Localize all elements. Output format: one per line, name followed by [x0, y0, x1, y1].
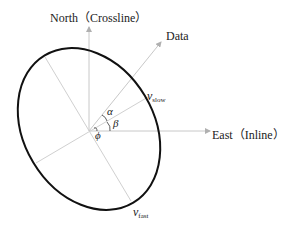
beta-label: β: [113, 117, 118, 129]
data-label: Data: [166, 29, 189, 44]
phi-label: ϕ: [95, 129, 101, 141]
v-fast-label: vfast: [133, 205, 148, 220]
beta-arc: [107, 122, 110, 131]
fast-axis: [45, 57, 131, 201]
north-label: North（Crossline）: [50, 8, 147, 26]
anisotropy-diagram: [0, 0, 284, 227]
alpha-label: α: [107, 105, 113, 117]
east-label: East（Inline）: [212, 125, 284, 143]
slow-axis: [36, 97, 148, 163]
v-slow-label: vslow: [147, 89, 166, 104]
